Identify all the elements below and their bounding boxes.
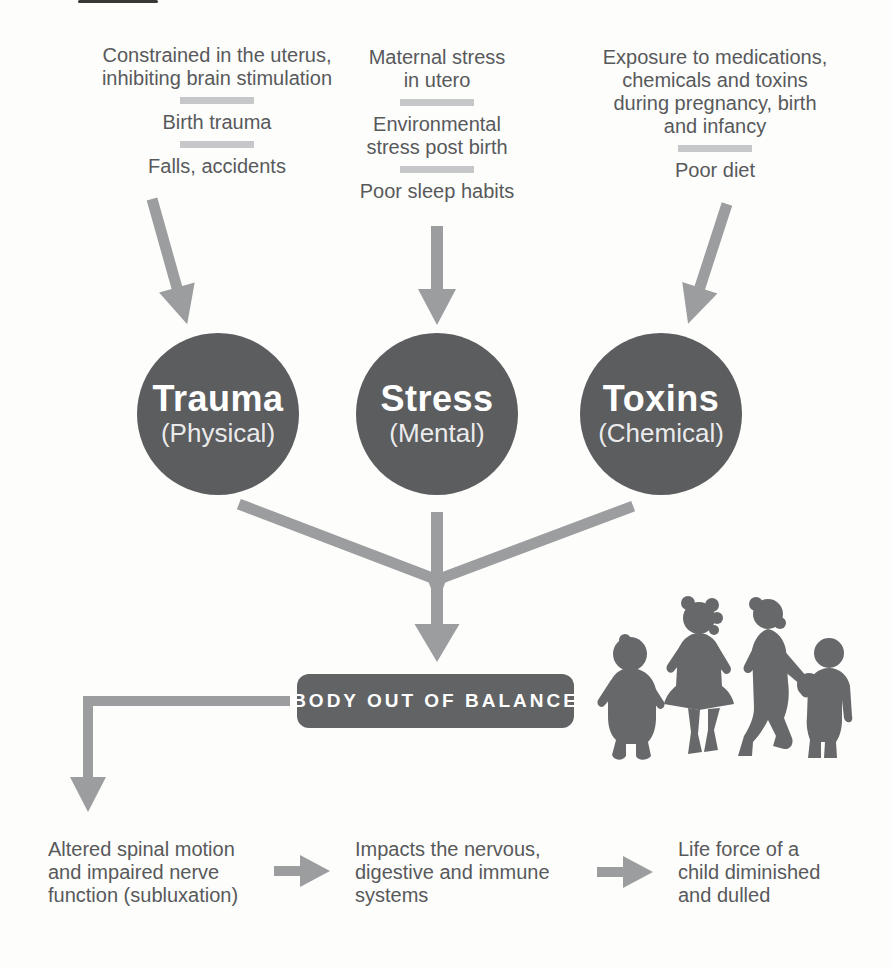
cause-line: Constrained in the uterus, bbox=[62, 44, 372, 67]
cause-line: Environmental bbox=[342, 113, 532, 136]
outcome-line: and dulled bbox=[678, 884, 858, 907]
circle-title: Stress bbox=[380, 380, 493, 418]
cause-text: Exposure to medications, chemicals and t… bbox=[583, 46, 847, 138]
stress-causes-column: Maternal stress in utero Environmental s… bbox=[342, 46, 532, 203]
cause-line: and infancy bbox=[583, 115, 847, 138]
outcome-right-arrow-icon bbox=[274, 855, 330, 887]
cause-line: stress post birth bbox=[342, 136, 532, 159]
outcome-line: systems bbox=[355, 884, 587, 907]
circle-title: Toxins bbox=[603, 380, 719, 418]
outcome-line: and impaired nerve bbox=[48, 861, 280, 884]
divider-bar bbox=[678, 145, 752, 152]
boy-silhouette bbox=[797, 638, 852, 758]
divider-bar bbox=[400, 166, 474, 173]
cause-text: Birth trauma bbox=[62, 111, 372, 134]
cause-text: Constrained in the uterus, inhibiting br… bbox=[62, 44, 372, 90]
converge-down-arrow-icon bbox=[415, 512, 460, 662]
body-out-of-balance-banner: BODY OUT OF BALANCE bbox=[297, 674, 574, 728]
cause-line: during pregnancy, birth bbox=[583, 92, 847, 115]
outcome-life-force-text: Life force of a child diminished and dul… bbox=[678, 838, 858, 907]
toddler-silhouette bbox=[597, 634, 664, 760]
outcome-line: function (subluxation) bbox=[48, 884, 280, 907]
cause-line: Poor sleep habits bbox=[342, 180, 532, 203]
circle-subtitle: (Physical) bbox=[161, 418, 275, 448]
cause-text: Poor diet bbox=[583, 159, 847, 182]
cause-line: Maternal stress bbox=[342, 46, 532, 69]
converge-right-line bbox=[434, 508, 628, 581]
toxins-causes-column: Exposure to medications, chemicals and t… bbox=[583, 46, 847, 182]
divider-bar bbox=[180, 141, 254, 148]
toxins-circle: Toxins (Chemical) bbox=[580, 333, 742, 495]
cause-line: chemicals and toxins bbox=[583, 69, 847, 92]
divider-bar bbox=[180, 97, 254, 104]
trauma-down-arrow-icon bbox=[134, 194, 205, 329]
cause-line: in utero bbox=[342, 69, 532, 92]
toxins-down-arrow-icon bbox=[670, 198, 744, 329]
cause-line: Birth trauma bbox=[62, 111, 372, 134]
cause-line: inhibiting brain stimulation bbox=[62, 67, 372, 90]
outcome-line: Altered spinal motion bbox=[48, 838, 280, 861]
trauma-circle: Trauma (Physical) bbox=[137, 333, 299, 495]
children-silhouettes-illustration bbox=[596, 590, 858, 768]
banner-label: BODY OUT OF BALANCE bbox=[292, 690, 579, 712]
cause-line: Poor diet bbox=[583, 159, 847, 182]
cause-text: Environmental stress post birth bbox=[342, 113, 532, 159]
diagram-canvas: Constrained in the uterus, inhibiting br… bbox=[0, 0, 892, 967]
outcome-subluxation-text: Altered spinal motion and impaired nerve… bbox=[48, 838, 280, 907]
cause-line: Exposure to medications, bbox=[583, 46, 847, 69]
scan-artifact-line bbox=[78, 0, 158, 3]
outcome-line: Impacts the nervous, bbox=[355, 838, 587, 861]
cause-line: Falls, accidents bbox=[62, 155, 372, 178]
tall-girl-silhouette bbox=[738, 597, 808, 756]
stress-down-arrow-icon bbox=[418, 226, 456, 325]
circle-title: Trauma bbox=[152, 380, 283, 418]
divider-bar bbox=[400, 99, 474, 106]
converge-left-line bbox=[244, 506, 440, 581]
cause-text: Maternal stress in utero bbox=[342, 46, 532, 92]
outcome-systems-text: Impacts the nervous, digestive and immun… bbox=[355, 838, 587, 907]
circle-subtitle: (Mental) bbox=[389, 418, 484, 448]
outcome-line: child diminished bbox=[678, 861, 858, 884]
circle-subtitle: (Chemical) bbox=[598, 418, 724, 448]
outcome-right-arrow-icon bbox=[597, 856, 653, 888]
outcome-line: Life force of a bbox=[678, 838, 858, 861]
girl-silhouette bbox=[664, 596, 734, 754]
children-silhouettes-group bbox=[597, 596, 852, 760]
cause-text: Falls, accidents bbox=[62, 155, 372, 178]
stress-circle: Stress (Mental) bbox=[356, 333, 518, 495]
outcome-line: digestive and immune bbox=[355, 861, 587, 884]
elbow-down-arrow-icon bbox=[70, 696, 106, 812]
cause-text: Poor sleep habits bbox=[342, 180, 532, 203]
trauma-causes-column: Constrained in the uterus, inhibiting br… bbox=[62, 44, 372, 178]
